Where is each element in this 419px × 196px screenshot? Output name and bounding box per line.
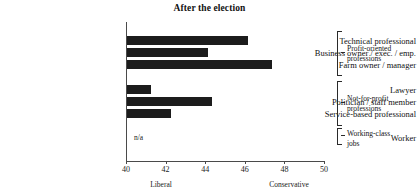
x-axis-tick <box>324 161 325 164</box>
group-label-line1: Working-class <box>347 129 417 139</box>
chart-container: After the election 40 42 44 46 48 50 Lib… <box>0 0 419 196</box>
x-axis-tick <box>245 161 246 164</box>
bar-business-owner <box>127 48 208 57</box>
axis-label-liberal: Liberal <box>126 180 196 189</box>
group-bracket-working-class <box>337 128 342 145</box>
group-label-line2: professions <box>347 104 417 114</box>
x-tick-label-46: 46 <box>233 165 257 174</box>
x-axis-tick <box>166 161 167 164</box>
worker-na-label: n/a <box>134 133 143 142</box>
x-axis-line <box>126 161 324 162</box>
group-label-line2: professions <box>347 54 417 64</box>
x-axis-tick <box>284 161 285 164</box>
group-label-line2: jobs <box>347 139 417 149</box>
group-bracket-nub <box>341 102 345 103</box>
bar-technical-professional <box>127 36 248 45</box>
bar-farm-owner <box>127 60 272 69</box>
group-label-line1: Profit-oriented <box>347 44 417 54</box>
axis-right-label-conservative: Conservative <box>254 180 324 189</box>
chart-title: After the election <box>0 3 419 13</box>
group-bracket-nub <box>341 135 345 136</box>
group-label-line1: Not-for-profit <box>347 94 417 104</box>
group-label-profit-oriented: Profit-oriented professions <box>347 44 417 63</box>
bar-service-based-professional <box>127 109 171 118</box>
x-tick-label-42: 42 <box>154 165 178 174</box>
group-label-not-for-profit: Not-for-profit professions <box>347 94 417 113</box>
x-tick-label-40: 40 <box>114 165 138 174</box>
x-tick-label-48: 48 <box>272 165 296 174</box>
x-tick-label-50: 50 <box>312 165 336 174</box>
x-tick-label-44: 44 <box>193 165 217 174</box>
group-label-working-class: Working-class jobs <box>347 129 417 148</box>
group-bracket-not-for-profit <box>337 81 342 126</box>
x-axis-tick <box>126 161 127 164</box>
group-bracket-profit-oriented <box>337 31 342 76</box>
group-bracket-nub <box>341 52 345 53</box>
bar-politician <box>127 97 212 106</box>
x-axis-tick <box>205 161 206 164</box>
bar-lawyer <box>127 85 151 94</box>
